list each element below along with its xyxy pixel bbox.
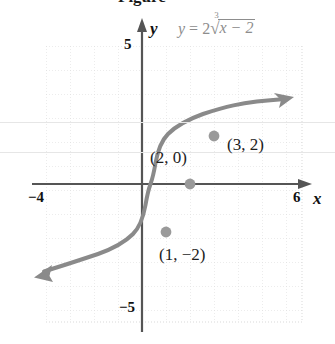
x-axis-label: x (313, 190, 322, 207)
coordinate-plane (0, 0, 335, 344)
point-label-2-0: (2, 0) (150, 149, 187, 166)
y-tick-label-neg5: −5 (119, 300, 135, 315)
y-axis-label: y (150, 20, 158, 37)
scan-artifact-upper (0, 122, 335, 123)
x-tick-label-6: 6 (293, 190, 301, 205)
y-tick-label-5: 5 (124, 37, 132, 52)
equation-label: y = 23√x − 2 (178, 20, 255, 37)
point-label-3-2: (3, 2) (227, 136, 264, 153)
x-tick-label-neg4: −4 (28, 190, 44, 205)
graph-figure: Figure (0, 0, 335, 344)
radicand: x − 2 (218, 19, 255, 36)
equation-coefficient: 2 (202, 20, 210, 37)
cube-root-symbol: 3√x − 2 (210, 20, 255, 37)
point-marker-3-2 (209, 131, 220, 142)
point-marker-2-0 (185, 179, 196, 190)
equation-equals: = (189, 20, 198, 37)
point-marker-1-neg2 (161, 227, 172, 238)
point-label-1-neg2: (1, −2) (159, 246, 205, 263)
